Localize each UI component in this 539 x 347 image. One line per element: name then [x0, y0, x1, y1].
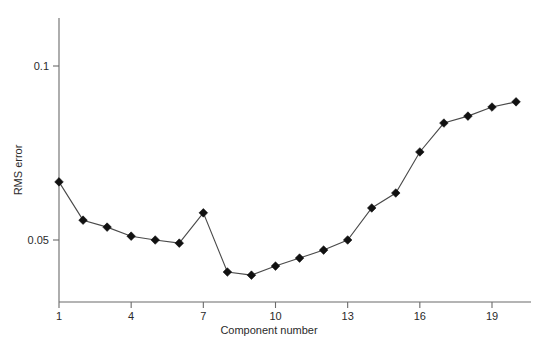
x-tick-label: 10: [269, 310, 281, 322]
data-point-marker: [127, 232, 136, 241]
data-point-marker: [512, 98, 521, 107]
y-axis-title: RMS error: [12, 144, 24, 195]
chart-data-markers: [55, 98, 521, 280]
y-tick-label: 0.1: [34, 60, 49, 72]
data-point-marker: [343, 236, 352, 245]
data-point-marker: [488, 103, 497, 112]
y-tick-label: 0.05: [28, 234, 49, 246]
x-tick-label: 7: [200, 310, 206, 322]
x-tick-label: 4: [128, 310, 134, 322]
data-point-marker: [247, 271, 256, 280]
data-point-marker: [223, 268, 232, 277]
data-point-marker: [319, 246, 328, 255]
rms-error-line-chart: 0.050.114710131619 Component number RMS …: [0, 0, 539, 347]
series-line-rms-error: [59, 102, 516, 275]
x-tick-label: 19: [486, 310, 498, 322]
chart-data-series: [59, 102, 516, 275]
x-tick-label: 1: [56, 310, 62, 322]
chart-tick-labels: 0.050.114710131619: [28, 60, 499, 322]
data-point-marker: [295, 254, 304, 263]
x-axis-title: Component number: [220, 324, 318, 336]
data-point-marker: [79, 216, 88, 225]
data-point-marker: [271, 262, 280, 271]
x-tick-label: 13: [342, 310, 354, 322]
chart-figure: 0.050.114710131619 Component number RMS …: [0, 0, 539, 347]
data-point-marker: [391, 189, 400, 198]
x-tick-label: 16: [414, 310, 426, 322]
data-point-marker: [151, 236, 160, 245]
data-point-marker: [464, 112, 473, 121]
data-point-marker: [55, 178, 64, 187]
data-point-marker: [103, 223, 112, 232]
chart-tick-marks: [53, 66, 492, 308]
data-point-marker: [367, 204, 376, 213]
